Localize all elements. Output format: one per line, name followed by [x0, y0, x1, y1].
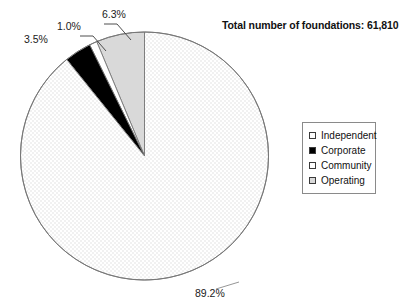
pie-chart-svg — [0, 0, 290, 307]
slice-label-community: 1.0% — [57, 20, 81, 32]
legend-item-corporate[interactable]: Corporate — [309, 143, 370, 158]
legend-swatch-icon — [309, 132, 316, 139]
legend-swatch-icon — [309, 147, 316, 154]
legend-item-community[interactable]: Community — [309, 158, 370, 173]
legend-item-label: Corporate — [321, 146, 365, 156]
pie-slices — [21, 32, 269, 280]
legend-item-label: Community — [321, 161, 372, 171]
chart-page: Total number of foundations: 61,810 6.3%… — [0, 0, 399, 307]
legend-swatch-icon — [309, 162, 316, 169]
chart-legend: IndependentCorporateCommunityOperating — [302, 122, 376, 194]
pie-slice-independent[interactable] — [21, 32, 269, 280]
legend-swatch-icon — [309, 177, 316, 184]
legend-item-label: Operating — [321, 176, 365, 186]
slice-label-operating: 6.3% — [102, 8, 126, 20]
legend-item-label: Independent — [321, 131, 377, 141]
legend-item-operating[interactable]: Operating — [309, 173, 370, 188]
slice-label-independent: 89.2% — [195, 287, 225, 299]
slice-label-corporate: 3.5% — [24, 33, 48, 45]
pie-chart — [0, 0, 290, 307]
legend-item-independent[interactable]: Independent — [309, 128, 370, 143]
